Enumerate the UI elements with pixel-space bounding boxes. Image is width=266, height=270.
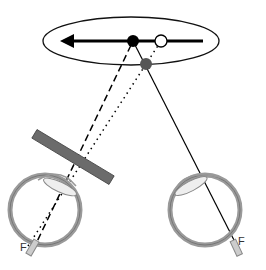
left-eye: F [10, 174, 80, 256]
arrowhead-icon [60, 34, 74, 48]
right-eye-solid-line [133, 41, 237, 246]
right-eye: F [170, 173, 245, 256]
pulfrich-diagram: F F [0, 0, 266, 270]
right-fovea-label: F [238, 235, 245, 247]
actual-position-dot [127, 35, 139, 47]
perceived-position-dot [140, 58, 152, 70]
delayed-position-circle [155, 35, 167, 47]
left-fovea-label: F [20, 241, 27, 253]
